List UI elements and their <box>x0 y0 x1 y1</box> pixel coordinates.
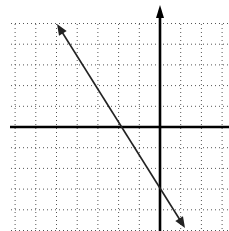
coordinate-plane <box>0 0 229 231</box>
y-axis-arrow-icon <box>156 5 164 18</box>
line-arrow-down-icon <box>175 216 185 228</box>
line-arrow-up-icon <box>57 24 67 36</box>
